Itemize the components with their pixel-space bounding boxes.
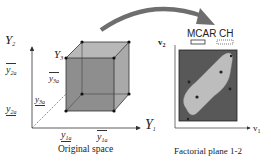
legend-ch-swatch	[217, 40, 233, 44]
legend-label-mcar: MCAR	[187, 29, 216, 39]
axis-label-y1: Y1	[145, 118, 156, 132]
tick-label-y2-lower: y2a	[6, 104, 16, 116]
axis-label-y2: Y2	[5, 33, 15, 47]
tick-label-y1-lower: y1a	[61, 130, 71, 142]
tick-label-y3-upper: y3a	[49, 72, 59, 84]
tick-label-y3-lower: y3a	[35, 95, 45, 106]
legend-mcar-swatch	[191, 40, 205, 44]
axis-label-y3: Y3	[54, 49, 63, 61]
diagram-graphics	[0, 0, 271, 166]
axis-label-v2: v2	[158, 38, 166, 48]
factorial-plane	[179, 50, 237, 121]
tick-label-y2-upper: y2a	[6, 63, 16, 76]
caption-original-space: Original space	[58, 145, 113, 155]
legend-label-ch: CH	[219, 29, 233, 39]
projection-arrow	[101, 8, 215, 30]
caption-factorial-plane: Factorial plane 1-2	[174, 147, 242, 156]
hypercube	[64, 40, 130, 112]
axis-label-v1: v1	[253, 124, 261, 134]
tick-label-y1-upper: y1a	[97, 130, 107, 143]
